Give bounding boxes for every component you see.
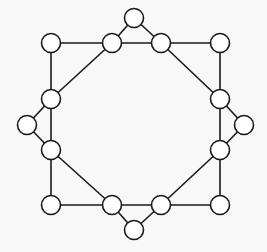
node-left-bottom [42,141,61,160]
edge-left-bottom-bottom-left [51,150,112,205]
edge-right-bottom-bottom-right [161,150,220,205]
node-bottom-right [152,196,171,215]
graph-diagram [0,0,267,252]
node-top-left [103,34,122,53]
node-top-tip [125,9,144,28]
node-corner-tr [211,34,230,53]
node-right-top [211,90,230,109]
node-right-tip [235,116,254,135]
node-corner-br [211,196,230,215]
node-left-tip [18,116,37,135]
node-corner-tl [42,34,61,53]
edge-top-right-right-top [161,43,220,99]
node-top-right [152,34,171,53]
edges-layer [27,18,244,230]
node-bottom-left [103,196,122,215]
edge-top-left-left-top [51,43,112,99]
node-corner-bl [42,196,61,215]
node-bottom-tip [125,221,144,240]
graph-svg [0,0,267,252]
node-right-bottom [211,141,230,160]
node-left-top [42,90,61,109]
